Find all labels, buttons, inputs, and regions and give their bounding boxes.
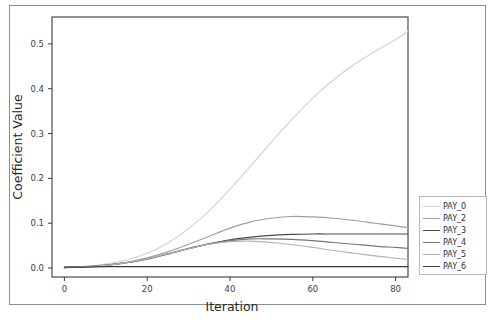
x-tick-label: 20 bbox=[142, 284, 153, 294]
legend-item-pay_0[interactable]: PAY_0 bbox=[423, 200, 482, 212]
legend-swatch-icon bbox=[423, 218, 440, 219]
y-tick-label: 0.3 bbox=[30, 129, 44, 139]
legend-item-label: PAY_6 bbox=[443, 262, 466, 271]
x-axis-ticks: 020406080 bbox=[62, 277, 401, 294]
legend-item-pay_5[interactable]: PAY_5 bbox=[423, 248, 482, 260]
y-tick-label: 0.4 bbox=[30, 84, 44, 94]
x-tick-label: 40 bbox=[225, 284, 236, 294]
legend-swatch-icon bbox=[423, 206, 440, 207]
y-axis-title: Coefficient Value bbox=[10, 94, 25, 200]
x-tick-label: 80 bbox=[390, 284, 401, 294]
axes-frame bbox=[52, 17, 408, 277]
series-line-pay_2 bbox=[64, 216, 408, 267]
legend-item-pay_2[interactable]: PAY_2 bbox=[423, 212, 482, 224]
x-tick-label: 60 bbox=[307, 284, 318, 294]
legend-item-pay_4[interactable]: PAY_4 bbox=[423, 236, 482, 248]
y-axis-ticks: 0.00.10.20.30.40.5 bbox=[30, 39, 52, 273]
legend-item-label: PAY_4 bbox=[443, 238, 466, 247]
legend-swatch-icon bbox=[423, 266, 440, 267]
legend-item-label: PAY_5 bbox=[443, 250, 466, 259]
legend-swatch-icon bbox=[423, 254, 440, 255]
y-tick-label: 0.2 bbox=[30, 173, 44, 183]
legend-item-pay_3[interactable]: PAY_3 bbox=[423, 224, 482, 236]
x-axis-title: Iteration bbox=[205, 299, 258, 314]
series-lines bbox=[64, 31, 408, 267]
legend-item-label: PAY_3 bbox=[443, 226, 466, 235]
coefficient-path-figure: 020406080 0.00.10.20.30.40.5 Iteration C… bbox=[0, 0, 495, 320]
legend-swatch-icon bbox=[423, 242, 440, 243]
series-line-pay_6 bbox=[64, 267, 408, 268]
y-tick-label: 0.5 bbox=[30, 39, 44, 49]
legend-item-label: PAY_2 bbox=[443, 214, 466, 223]
y-tick-label: 0.0 bbox=[30, 263, 44, 273]
legend-item-pay_6[interactable]: PAY_6 bbox=[423, 260, 482, 272]
x-tick-label: 0 bbox=[62, 284, 67, 294]
y-tick-label: 0.1 bbox=[30, 218, 44, 228]
series-line-pay_0 bbox=[64, 31, 408, 267]
legend: PAY_0PAY_2PAY_3PAY_4PAY_5PAY_6 bbox=[419, 196, 487, 275]
legend-swatch-icon bbox=[423, 230, 440, 231]
legend-item-label: PAY_0 bbox=[443, 202, 466, 211]
